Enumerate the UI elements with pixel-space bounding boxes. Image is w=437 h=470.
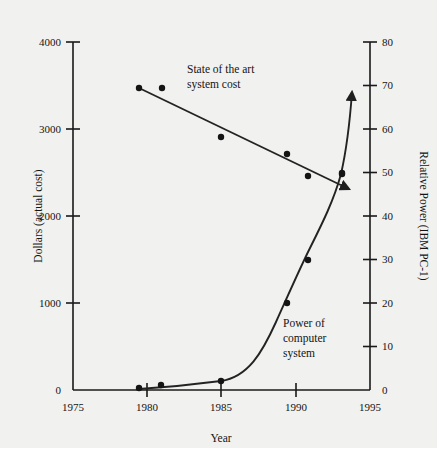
cost-annotation: State of the art system cost (187, 62, 254, 92)
x-axis-tick-1975: 1975 (62, 402, 84, 413)
y2-axis-tick-10: 10 (382, 341, 393, 352)
y2-axis-tick-50: 50 (382, 167, 393, 178)
x-axis-tick-1980: 1980 (136, 402, 158, 413)
y-axis-tick-3000: 3000 (39, 124, 61, 135)
y2-axis-tick-80: 80 (382, 37, 393, 48)
cost-annotation-line-1: State of the art (187, 62, 254, 77)
data-point (159, 85, 165, 91)
y2-axis-tick-0: 0 (382, 385, 388, 396)
y-axis-tick-0: 0 (56, 385, 62, 396)
y-axis-tick-4000: 4000 (39, 37, 61, 48)
y-axis-title: Dollars (actual cost) (32, 169, 44, 262)
y2-axis-title: Relative Power (IBM PC-1) (418, 151, 430, 280)
cost-trend-line (139, 88, 349, 189)
y2-axis-tick-70: 70 (382, 80, 393, 91)
power-annotation: Power of computer system (283, 316, 326, 361)
data-point (284, 300, 290, 306)
y2-axis-tick-30: 30 (382, 254, 393, 265)
data-point (305, 257, 311, 263)
data-point (218, 134, 224, 140)
x-axis-tick-1995: 1995 (359, 402, 381, 413)
data-point (218, 378, 224, 384)
power-annotation-line-3: system (283, 346, 326, 361)
y2-axis-tick-60: 60 (382, 124, 393, 135)
data-point (136, 85, 142, 91)
x-axis-tick-1985: 1985 (210, 402, 232, 413)
y-axis-tick-1000: 1000 (39, 298, 61, 309)
data-point (158, 382, 164, 388)
data-point (136, 385, 142, 391)
cost-data-points (136, 85, 345, 179)
data-point (339, 170, 345, 176)
y2-axis-tick-20: 20 (382, 298, 393, 309)
chart-figure: 4000 3000 2000 1000 0 80 70 60 50 40 30 … (0, 0, 437, 470)
power-annotation-line-2: computer (283, 331, 326, 346)
cost-annotation-line-2: system cost (187, 77, 254, 92)
y2-axis-tick-40: 40 (382, 211, 393, 222)
data-point (284, 151, 290, 157)
x-axis-title: Year (210, 432, 231, 444)
power-annotation-line-1: Power of (283, 316, 326, 331)
x-axis-tick-1990: 1990 (285, 402, 307, 413)
data-point (305, 173, 311, 179)
